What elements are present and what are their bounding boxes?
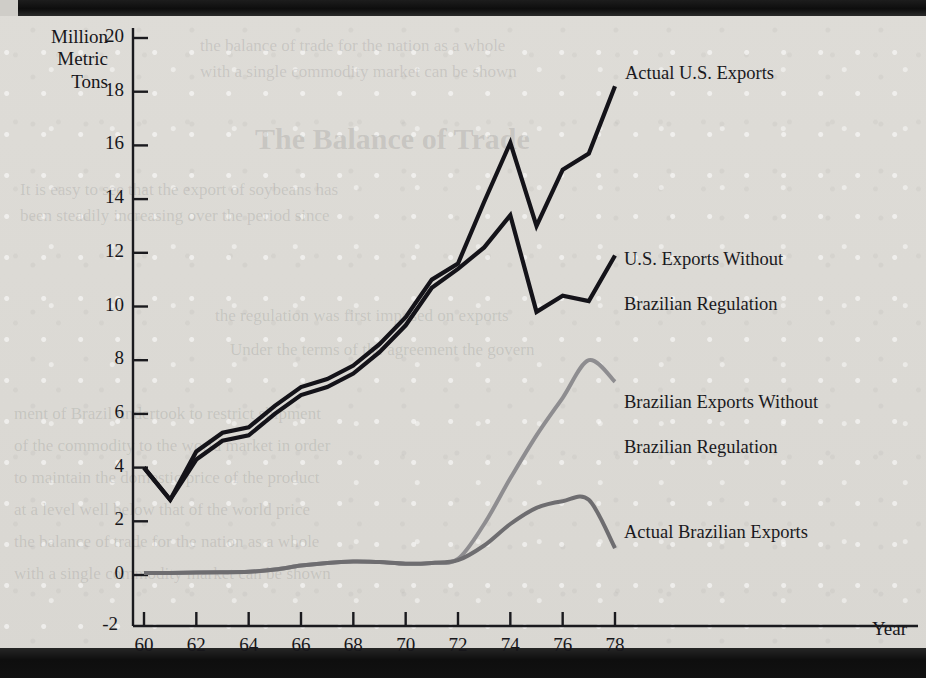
- line-chart-plot: [0, 0, 926, 678]
- y-tick-label: -2: [84, 613, 118, 635]
- x-tick-label: 68: [333, 634, 373, 656]
- x-tick-label: 76: [543, 634, 583, 656]
- series-label-us-without-line1: U.S. Exports Without: [624, 248, 783, 270]
- series-label-us-without-line2: Brazilian Regulation: [624, 293, 783, 315]
- series-line-actual-u-s-exports: [144, 86, 615, 500]
- y-tick-label: 6: [90, 401, 124, 423]
- series-line-actual-brazilian-exports: [144, 496, 615, 573]
- series-label-actual-brazilian-exports: Actual Brazilian Exports: [624, 521, 808, 543]
- y-tick-label: 18: [90, 79, 124, 101]
- x-tick-label: 72: [438, 634, 478, 656]
- x-tick-label: 62: [176, 634, 216, 656]
- scanned-figure-page: the balance of trade for the nation as a…: [0, 0, 926, 678]
- y-tick-label: 14: [90, 186, 124, 208]
- x-tick-label: 78: [595, 634, 635, 656]
- y-tick-label: 4: [90, 455, 124, 477]
- series-line-u-s-exports-without-brazilian-regulation: [144, 215, 615, 500]
- series-label-brazilian-exports-without-regulation: Brazilian Exports Without Brazilian Regu…: [624, 369, 818, 480]
- series-label-br-without-line1: Brazilian Exports Without: [624, 391, 818, 413]
- x-tick-label: 64: [229, 634, 269, 656]
- y-tick-label: 8: [90, 347, 124, 369]
- series-label-br-without-line2: Brazilian Regulation: [624, 436, 818, 458]
- y-tick-label: 20: [90, 25, 124, 47]
- series-line-brazilian-exports-without-brazilian-regulation: [144, 360, 615, 573]
- series-label-actual-us-exports: Actual U.S. Exports: [625, 62, 774, 84]
- x-tick-label: 74: [490, 634, 530, 656]
- data-series-group: [144, 86, 615, 573]
- x-tick-label: 60: [124, 634, 164, 656]
- y-tick-label: 12: [90, 240, 124, 262]
- x-tick-label: 70: [386, 634, 426, 656]
- x-tick-label: 66: [281, 634, 321, 656]
- series-label-us-exports-without-regulation: U.S. Exports Without Brazilian Regulatio…: [624, 226, 783, 337]
- y-tick-label: 2: [90, 508, 124, 530]
- y-tick-label: 10: [90, 294, 124, 316]
- y-tick-label: 16: [90, 132, 124, 154]
- y-tick-label: 0: [90, 562, 124, 584]
- tick-marks-group: [133, 38, 615, 626]
